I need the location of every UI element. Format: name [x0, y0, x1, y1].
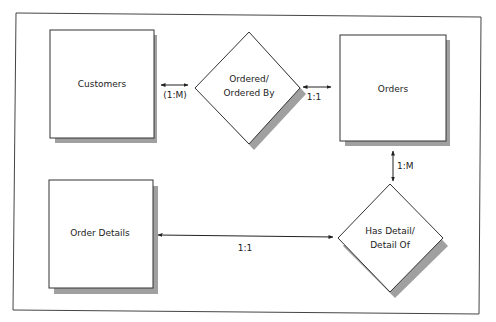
svg-text:1:1: 1:1: [307, 92, 321, 102]
connector-ordered-orders: 1:1: [303, 87, 331, 102]
entity-order-details[interactable]: Order Details: [49, 180, 158, 294]
connector-customers-ordered: (1:M): [161, 85, 188, 100]
connector-order-details-has-detail: 1:1: [158, 235, 333, 253]
relationship-has-detail[interactable]: Has Detail/ Detail Of: [338, 184, 448, 298]
entity-label: Order Details: [70, 228, 130, 238]
entity-label: Orders: [378, 84, 409, 94]
entity-label: Customers: [78, 79, 127, 89]
relationship-label-line2: Ordered By: [224, 88, 276, 98]
relationship-label-line1: Has Detail/: [365, 226, 415, 236]
svg-text:(1:M): (1:M): [163, 90, 187, 100]
entity-orders[interactable]: Orders: [340, 35, 450, 146]
svg-text:1:1: 1:1: [238, 243, 252, 253]
er-diagram: Customers Orders Order Details Ordered/ …: [0, 0, 496, 322]
connector-orders-has-detail: 1:M: [393, 151, 414, 181]
svg-text:1:M: 1:M: [397, 161, 414, 171]
relationship-ordered[interactable]: Ordered/ Ordered By: [195, 32, 306, 150]
relationship-label-line2: Detail Of: [370, 240, 410, 250]
relationship-label-line1: Ordered/: [229, 74, 270, 84]
entity-customers[interactable]: Customers: [50, 30, 157, 143]
